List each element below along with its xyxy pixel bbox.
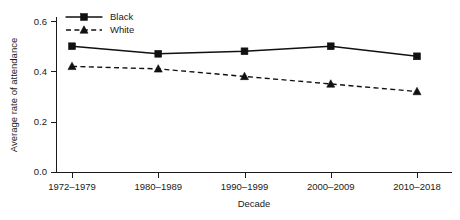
x-tick-label: 1972–1979 (48, 181, 96, 192)
x-axis-title: Decade (238, 198, 271, 209)
data-point-marker-black (414, 53, 421, 60)
y-tick-label: 0.0 (34, 166, 47, 177)
data-point-marker-black (241, 48, 248, 55)
data-point-marker-black (155, 50, 162, 57)
x-tick-label: 1990–1999 (221, 181, 269, 192)
x-tick-label: 2010–2018 (393, 181, 441, 192)
legend-label-black: Black (110, 11, 133, 22)
legend-marker-black (81, 14, 88, 21)
line-chart: 0.00.20.40.6 1972–19791980–19891990–1999… (0, 0, 460, 220)
x-tick-label: 2000–2009 (307, 181, 355, 192)
y-tick-label: 0.4 (34, 66, 47, 77)
data-point-marker-black (327, 43, 334, 50)
data-point-marker-black (69, 43, 76, 50)
y-tick-label: 0.6 (34, 16, 47, 27)
x-tick-label: 1980–1989 (134, 181, 182, 192)
y-axis-title: Average rate of attendance (8, 38, 19, 152)
legend-label-white: White (110, 24, 134, 35)
y-tick-label: 0.2 (34, 116, 47, 127)
